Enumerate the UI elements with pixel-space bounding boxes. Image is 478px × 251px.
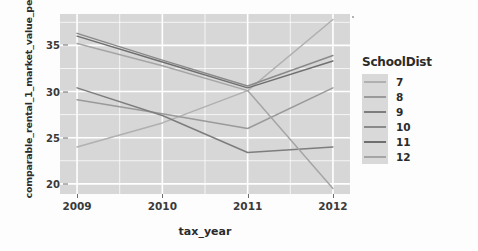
legend-key-swatch: [362, 74, 388, 89]
x-tick-label: 2009: [55, 200, 99, 212]
x-axis-title: tax_year: [60, 225, 350, 238]
legend-item-12[interactable]: 12: [362, 149, 474, 164]
legend-line-icon: [364, 141, 386, 143]
legend-item-label: 10: [396, 121, 411, 133]
x-tick-mark: [162, 194, 163, 198]
legend-line-icon: [364, 81, 386, 83]
legend-line-icon: [364, 96, 386, 98]
legend-key-swatch: [362, 149, 388, 164]
legend-items: 789101112: [362, 74, 474, 164]
x-tick-mark: [248, 194, 249, 198]
legend-line-icon: [364, 126, 386, 128]
x-tick-label: 2010: [140, 200, 184, 212]
legend-key-swatch: [362, 134, 388, 149]
legend-key-swatch: [362, 119, 388, 134]
legend-item-8[interactable]: 8: [362, 89, 474, 104]
legend-item-label: 11: [396, 136, 411, 148]
legend-title: SchoolDist: [362, 55, 474, 69]
legend-item-label: 9: [396, 106, 403, 118]
x-tick-mark: [77, 194, 78, 198]
legend-item-9[interactable]: 9: [362, 104, 474, 119]
legend-item-label: 7: [396, 76, 403, 88]
legend-item-7[interactable]: 7: [362, 74, 474, 89]
legend-line-icon: [364, 156, 386, 158]
x-tick-mark: [333, 194, 334, 198]
legend-key-swatch: [362, 104, 388, 119]
legend-line-icon: [364, 111, 386, 113]
x-tick-label: 2012: [311, 200, 355, 212]
legend-key-swatch: [362, 89, 388, 104]
x-tick-label: 2011: [226, 200, 270, 212]
line-chart: 20253035 comparable_rental_1_market_valu…: [0, 0, 478, 251]
legend-item-11[interactable]: 11: [362, 134, 474, 149]
legend-item-label: 12: [396, 151, 411, 163]
legend: SchoolDist 789101112: [362, 55, 474, 164]
legend-item-10[interactable]: 10: [362, 119, 474, 134]
legend-item-label: 8: [396, 91, 403, 103]
